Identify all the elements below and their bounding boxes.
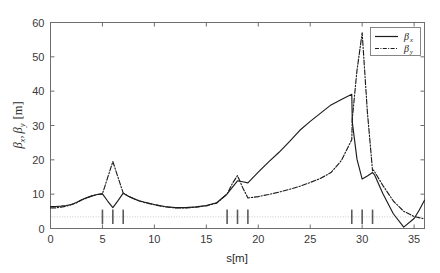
- x-tick-label: 25: [304, 233, 316, 245]
- beta-function-chart-figure: 05101520253035 0102030405060 s[m] βx,βy[…: [0, 0, 440, 273]
- y-tick-label: 30: [32, 120, 44, 132]
- x-tick-label: 10: [148, 233, 160, 245]
- chart-legend[interactable]: β x β y: [371, 28, 421, 56]
- legend-label-beta-x-symbol: β: [403, 31, 409, 42]
- y-tick-label: 10: [32, 188, 44, 200]
- legend-background: [371, 28, 421, 56]
- x-tick-label: 0: [47, 233, 53, 245]
- x-tick-label: 30: [356, 233, 368, 245]
- y-tick-label: 20: [32, 154, 44, 166]
- legend-label-beta-y-subscript: y: [409, 48, 413, 55]
- y-tick-label: 40: [32, 85, 44, 97]
- legend-label-beta-x-subscript: x: [409, 36, 413, 43]
- y-tick-label: 0: [38, 223, 44, 235]
- x-tick-label: 15: [200, 233, 212, 245]
- y-tick-label: 50: [32, 51, 44, 63]
- x-axis-title: s[m]: [226, 252, 248, 264]
- y-axis-unit: [m]: [11, 101, 25, 119]
- y-axis-separator: ,: [11, 135, 25, 138]
- x-tick-label: 5: [99, 233, 105, 245]
- legend-label-beta-y-symbol: β: [403, 43, 409, 54]
- chart-canvas: 05101520253035 0102030405060 s[m] βx,βy[…: [0, 0, 440, 273]
- x-tick-label: 20: [252, 233, 264, 245]
- y-axis-y-subscript: y: [17, 123, 27, 128]
- x-tick-label: 35: [408, 233, 420, 245]
- y-tick-label: 60: [32, 17, 44, 29]
